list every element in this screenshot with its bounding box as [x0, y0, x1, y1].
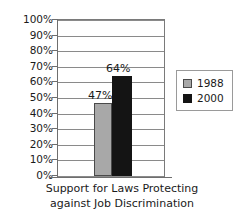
bar-2000	[112, 76, 132, 176]
y-axis-tick-label: 20%	[7, 139, 53, 149]
caption-line-2: against Job Discrimination	[0, 197, 244, 212]
legend-item-2000[interactable]: 2000	[183, 91, 232, 106]
y-axis-tick-label: 60%	[7, 76, 53, 86]
bar-chart-figure: 100%90%80%70%60%50%40%30%20%10%0% 47%64%…	[0, 0, 244, 215]
y-axis-tick-label: 10%	[7, 154, 53, 164]
gridline	[58, 82, 164, 83]
y-axis-tick-label: 40%	[7, 108, 53, 118]
y-axis-tick-label: 30%	[7, 123, 53, 133]
gridline	[58, 51, 164, 52]
chart-caption: Support for Laws Protecting against Job …	[0, 182, 244, 211]
gridline	[58, 36, 164, 37]
y-axis-tick-label: 90%	[7, 30, 53, 40]
legend-item-1988[interactable]: 1988	[183, 76, 232, 91]
legend-label: 1988	[197, 78, 224, 89]
legend-swatch-icon	[183, 79, 192, 88]
y-axis-tick-label: 80%	[7, 45, 53, 55]
data-label-2000: 64%	[106, 63, 130, 74]
y-axis-tick-label: 100%	[7, 14, 53, 24]
y-axis-line	[57, 19, 58, 178]
y-axis-tick-label: 70%	[7, 61, 53, 71]
x-axis-line	[50, 177, 172, 178]
bar-1988	[94, 103, 112, 176]
y-axis-tick-label: 0%	[7, 170, 53, 180]
chart-legend: 19882000	[176, 70, 233, 111]
y-axis-tick-label: 50%	[7, 92, 53, 102]
data-label-1988: 47%	[88, 90, 112, 101]
legend-label: 2000	[197, 93, 224, 104]
plot-area: 47%64%	[57, 19, 165, 177]
gridline	[58, 20, 164, 21]
caption-line-1: Support for Laws Protecting	[0, 182, 244, 197]
legend-swatch-icon	[183, 94, 192, 103]
